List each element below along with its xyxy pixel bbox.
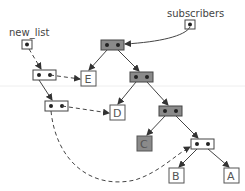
new-list-pointer — [22, 40, 32, 49]
new-node-3 — [191, 139, 214, 149]
leaf-b: B — [169, 168, 184, 183]
svg-text:D: D — [113, 107, 121, 120]
subscribers-label: subscribers — [167, 8, 224, 19]
new-list-label: new_list — [9, 27, 49, 39]
leaf-a: A — [224, 168, 239, 183]
svg-text:A: A — [227, 170, 235, 183]
shared-node-2 — [130, 72, 153, 82]
leaf-c: C — [137, 136, 152, 151]
shared-root-node — [101, 40, 124, 50]
svg-text:B: B — [172, 170, 180, 183]
leaf-e: E — [81, 71, 96, 86]
svg-text:E: E — [85, 73, 92, 86]
shared-node-3 — [159, 106, 182, 116]
leaf-d: D — [110, 105, 125, 120]
svg-text:C: C — [140, 138, 148, 151]
persistent-tree-diagram: new_list subscribers E — [0, 0, 245, 191]
